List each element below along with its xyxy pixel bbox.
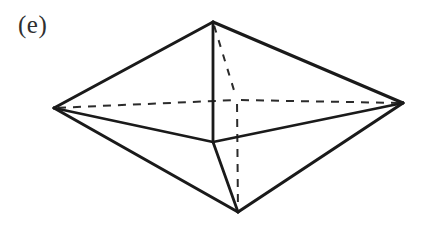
figure-container: (e) [0,0,433,252]
hidden-edges-group [58,26,399,208]
edge-top-apex-to-back-hidden [214,26,236,96]
edge-lower-left-silhouette [54,108,238,212]
edge-back-to-bottom-apex-hidden [237,104,238,208]
edge-upper-right-silhouette [213,22,403,103]
visible-edges-group [54,22,403,212]
edge-front-to-left [54,108,213,142]
edge-left-to-back-hidden [58,100,233,108]
edge-upper-left-silhouette [54,22,213,108]
edge-back-to-right-hidden [241,100,399,103]
polyhedron-diagram [0,0,433,252]
